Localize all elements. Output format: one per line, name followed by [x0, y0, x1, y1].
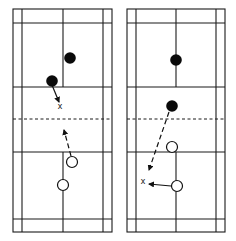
player-filled: [170, 54, 182, 66]
shuttle-landing-x-marker: x: [141, 176, 146, 186]
court-diagram: xx: [0, 0, 236, 241]
diagram-canvas: xx: [0, 0, 236, 241]
court-panel-right: x: [127, 9, 225, 232]
player-filled: [166, 100, 178, 112]
shuttle-landing-x-marker: x: [58, 101, 63, 111]
movement-arrow-dashed: [149, 112, 169, 170]
player-open: [172, 181, 183, 192]
movement-arrow-solid: [149, 184, 171, 186]
movement-arrow-solid: [52, 85, 59, 102]
player-filled: [46, 75, 58, 87]
court-panel-left: x: [13, 9, 112, 232]
player-open: [58, 180, 69, 191]
player-open: [167, 142, 178, 153]
player-filled: [64, 52, 76, 64]
player-open: [67, 157, 78, 168]
